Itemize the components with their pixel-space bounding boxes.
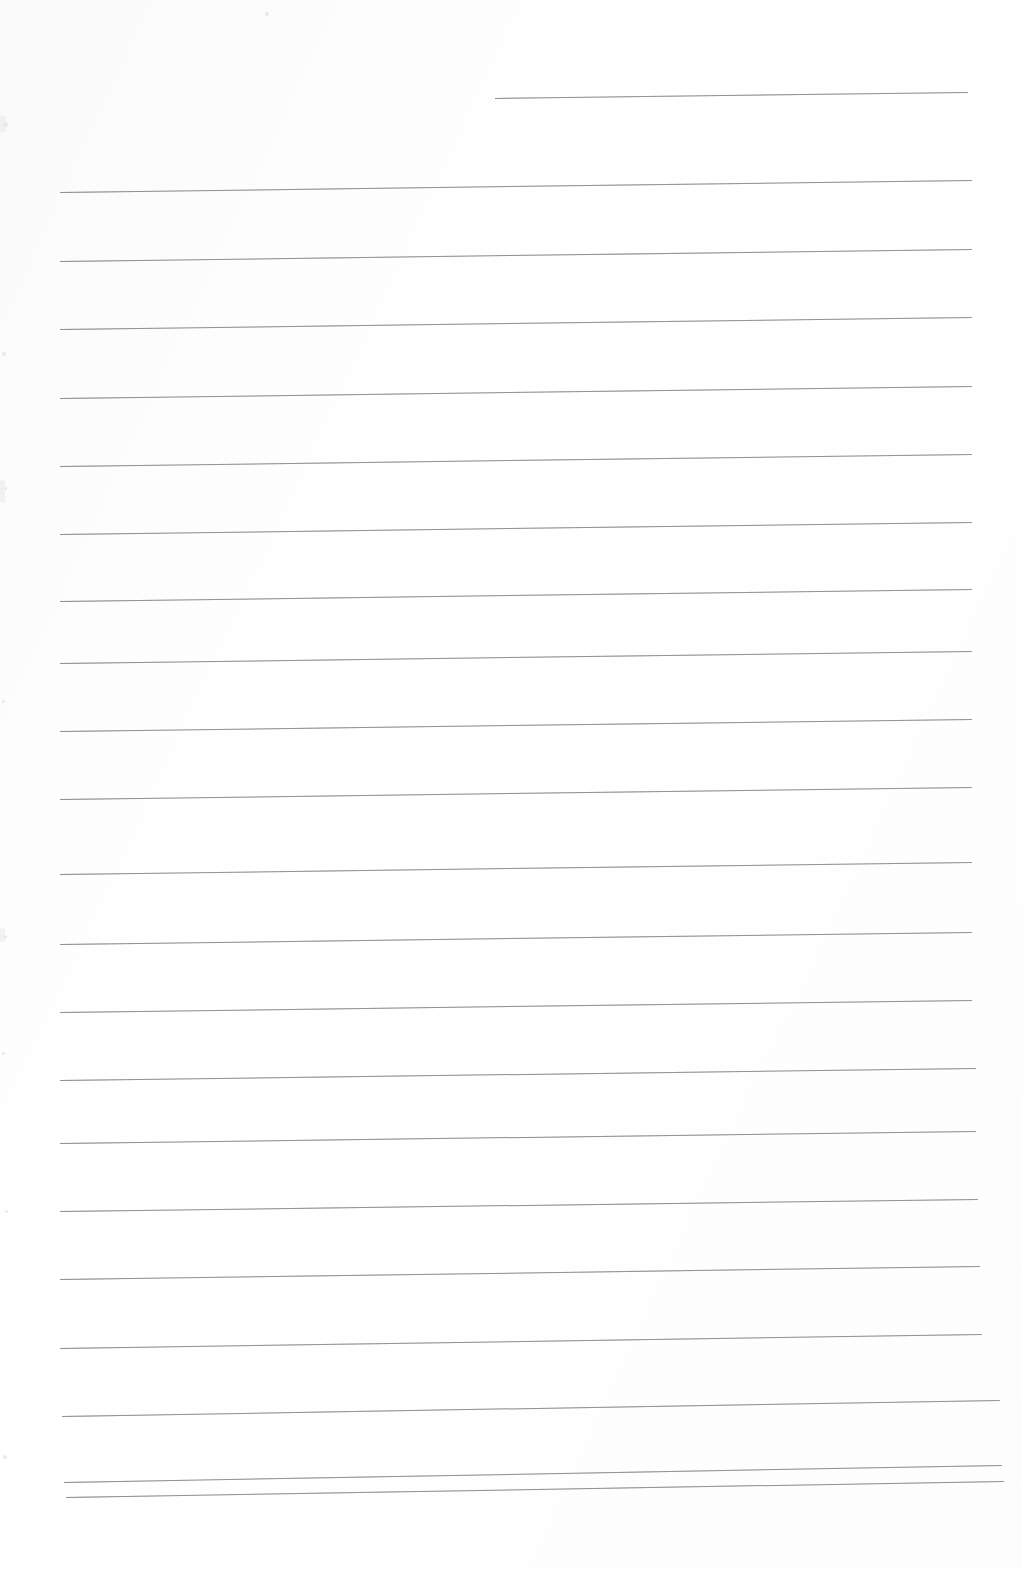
ruled-line	[60, 1068, 976, 1081]
ruled-line	[60, 1131, 976, 1144]
ruled-line	[60, 719, 972, 732]
ruled-line	[60, 787, 972, 800]
ruled-line	[60, 1199, 978, 1212]
ruled-line	[64, 1465, 1002, 1483]
ruled-line	[60, 522, 972, 535]
ruled-line	[60, 249, 972, 262]
ruled-line	[62, 1400, 1000, 1417]
ruled-line	[60, 862, 972, 875]
ruled-line	[495, 92, 968, 99]
ruled-line	[60, 589, 972, 602]
ruled-line	[60, 1334, 982, 1349]
ruled-line	[60, 651, 972, 664]
ruled-line	[60, 932, 972, 945]
scanned-page	[0, 0, 1022, 1569]
ruled-line-layer	[0, 0, 1022, 1569]
ruled-line	[60, 1266, 980, 1280]
ruled-line	[60, 386, 972, 399]
ruled-line	[60, 1000, 972, 1013]
ruled-line	[60, 180, 972, 193]
ruled-line	[60, 317, 972, 330]
ruled-line	[60, 454, 972, 467]
ruled-line	[66, 1481, 1004, 1498]
